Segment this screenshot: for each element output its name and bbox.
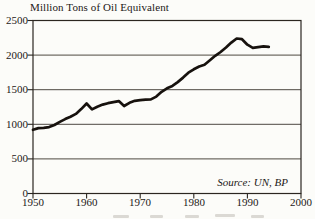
cropped-caption-fragment (150, 215, 163, 218)
gridlines (33, 55, 301, 159)
cropped-caption-fragment (113, 215, 129, 218)
y-axis-label: 2500 (0, 15, 28, 26)
cropped-caption-fragment (185, 215, 199, 218)
x-axis-label: 2000 (283, 197, 315, 208)
x-axis-label: 1980 (176, 197, 212, 208)
x-axis-label: 1960 (69, 197, 105, 208)
y-axis-label: 2000 (0, 50, 28, 61)
y-axis-label: 1500 (0, 84, 28, 95)
x-axis-label: 1990 (230, 197, 266, 208)
y-axis-label: 500 (0, 153, 28, 164)
cropped-caption-fragment (215, 214, 235, 217)
x-axis-label: 1970 (122, 197, 158, 208)
x-axis-label: 1950 (15, 197, 51, 208)
y-axis-label: 1000 (0, 119, 28, 130)
oil-equivalent-chart-figure: Million Tons of Oil Equivalent 2500 2000… (0, 0, 315, 219)
cropped-caption-fragment (251, 215, 264, 218)
data-series-line (33, 39, 269, 130)
source-note: Source: UN, BP (217, 176, 288, 188)
